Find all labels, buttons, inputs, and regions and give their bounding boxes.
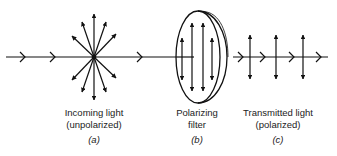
caption-a-line1: Incoming light (44, 107, 144, 119)
caption-b-line2: filter (165, 119, 229, 131)
caption-transmitted-light: Transmitted light (polarized) (c) (232, 107, 324, 146)
caption-incoming-light: Incoming light (unpolarized) (a) (44, 107, 144, 146)
panel-label-a: (a) (44, 134, 144, 146)
caption-c-line1: Transmitted light (232, 107, 324, 119)
panel-label-c: (c) (232, 134, 324, 146)
transmitted-beam (233, 52, 328, 62)
caption-c-line2: (polarized) (232, 119, 324, 131)
caption-polarizing-filter: Polarizing filter (b) (165, 107, 229, 146)
caption-b-line1: Polarizing (165, 107, 229, 119)
incoming-beam (6, 52, 200, 62)
panel-label-b: (b) (165, 134, 229, 146)
caption-a-line2: (unpolarized) (44, 119, 144, 131)
